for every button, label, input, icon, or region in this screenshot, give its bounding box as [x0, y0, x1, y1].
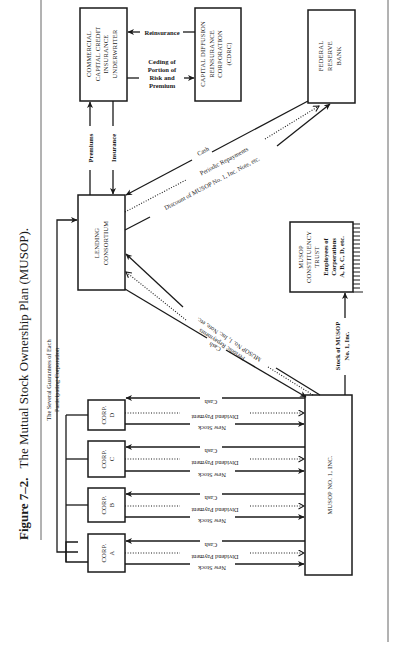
- svg-text:CONSORTIUM: CONSORTIUM: [102, 221, 109, 266]
- svg-text:Participating Corporation: Participating Corporation: [53, 347, 60, 412]
- svg-text:INSURANCE: INSURANCE: [102, 35, 109, 74]
- figure-title: The Mutual Stock Ownership Plan (MUSOP).: [16, 228, 31, 469]
- svg-text:CORP.: CORP.: [100, 543, 107, 562]
- svg-text:Dividend Payment: Dividend Payment: [191, 414, 238, 421]
- edge-stock-musop: Stock of MUSOP No. 1, Inc.: [334, 293, 350, 395]
- svg-text:CAPITAL CREDIT: CAPITAL CREDIT: [94, 27, 101, 82]
- svg-text:Corporations: Corporations: [330, 238, 337, 276]
- edge-fed-repayments: Periodic Repayments: [125, 106, 319, 212]
- svg-text:CAPITAL DIFFUSION: CAPITAL DIFFUSION: [199, 21, 206, 87]
- svg-text:Portion of: Portion of: [148, 66, 177, 73]
- edge-reinsurance: Reinsurance: [128, 29, 195, 36]
- svg-text:Reinsurance: Reinsurance: [144, 29, 179, 36]
- edge-corp-b-newstock: New Stock: [125, 517, 304, 525]
- node-corp-a: CORP. A: [88, 534, 125, 572]
- svg-text:LENDING: LENDING: [93, 228, 100, 258]
- svg-text:CORPORATION: CORPORATION: [216, 30, 223, 78]
- musop-diagram: Figure 7–2.The Mutual Stock Ownership Pl…: [0, 0, 394, 668]
- node-musop-no1: MUSOP NO. 1, INC.: [305, 395, 352, 575]
- svg-text:New Stock: New Stock: [197, 565, 226, 572]
- svg-text:CORP.: CORP.: [100, 495, 107, 514]
- svg-text:MUSOP NO. 1, INC.: MUSOP NO. 1, INC.: [326, 455, 333, 514]
- svg-text:CORP.: CORP.: [100, 449, 107, 468]
- svg-text:Insurance: Insurance: [110, 134, 117, 162]
- edge-fed-discount: Discount of MUSOP No. 1, Inc. Note, etc.: [125, 104, 330, 230]
- svg-text:Dividend Payment: Dividend Payment: [191, 460, 238, 467]
- svg-text:MUSOP: MUSOP: [297, 245, 304, 269]
- edge-premiums: Premiums: [87, 102, 94, 195]
- svg-text:Cash: Cash: [204, 448, 217, 455]
- edge-corp-c-dividend: Dividend Payment: [125, 459, 304, 467]
- svg-text:Dividend Payment: Dividend Payment: [191, 554, 238, 561]
- svg-text:New Stock: New Stock: [197, 472, 226, 479]
- svg-text:B: B: [108, 502, 115, 507]
- svg-text:CONSTITUENCY: CONSTITUENCY: [305, 231, 312, 283]
- svg-text:The Several Guarantees of Each: The Several Guarantees of Each: [45, 339, 52, 421]
- svg-text:Cash: Cash: [196, 144, 211, 156]
- node-cdrc: CAPITAL DIFFUSION REINSURANCE CORPORATIO…: [195, 8, 241, 101]
- svg-text:CORP.: CORP.: [100, 405, 107, 424]
- svg-text:A, B, C, D, etc.: A, B, C, D, etc.: [338, 236, 345, 278]
- svg-text:Cash: Cash: [204, 495, 217, 502]
- node-corp-b: CORP. B: [88, 488, 125, 522]
- svg-text:Stock of MUSOP: Stock of MUSOP: [334, 322, 341, 370]
- svg-text:Ceding of: Ceding of: [148, 58, 176, 65]
- svg-text:BANK: BANK: [335, 46, 342, 65]
- svg-text:FEDERAL: FEDERAL: [317, 41, 324, 72]
- svg-text:New Stock: New Stock: [197, 425, 226, 432]
- svg-text:COMMERCIAL: COMMERCIAL: [85, 31, 92, 77]
- edge-corp-c-newstock: New Stock: [125, 471, 304, 479]
- edge-corp-c-cash: Cash: [126, 447, 305, 455]
- svg-text:UNDERWRITER: UNDERWRITER: [111, 29, 118, 79]
- node-constituency-trust: MUSOP CONSTITUENCY TRUST Employees of Co…: [290, 222, 363, 292]
- edge-corp-b-dividend: Dividend Payment: [125, 506, 304, 514]
- edge-corp-a-newstock: New Stock: [125, 564, 304, 572]
- svg-text:D: D: [108, 412, 115, 417]
- figure-caption: Figure 7–2.The Mutual Stock Ownership Pl…: [16, 228, 31, 540]
- node-corp-d: CORP. D: [88, 400, 125, 430]
- node-federal-reserve: FEDERAL RESERVE BANK: [308, 10, 355, 103]
- trust-hatch: [353, 224, 363, 292]
- svg-text:Premium: Premium: [149, 82, 176, 89]
- svg-text:TRUST: TRUST: [313, 246, 320, 268]
- edge-corp-a-dividend: Dividend Payment: [125, 553, 304, 561]
- figure-label: Figure 7–2.: [16, 477, 31, 540]
- svg-text:No. 1, Inc.: No. 1, Inc.: [343, 331, 350, 360]
- svg-text:A: A: [108, 550, 115, 555]
- edge-corp-d-cash: Cash: [126, 398, 305, 406]
- edge-corp-a-cash: Cash: [126, 541, 305, 549]
- svg-text:Risk and: Risk and: [149, 74, 174, 81]
- edge-corp-b-cash: Cash: [126, 494, 305, 502]
- node-underwriter: COMMERCIAL CAPITAL CREDIT INSURANCE UNDE…: [80, 8, 127, 101]
- svg-text:Cash: Cash: [204, 542, 217, 549]
- svg-text:C: C: [108, 457, 115, 462]
- svg-text:(CDRC): (CDRC): [225, 42, 233, 65]
- svg-text:RESERVE: RESERVE: [326, 41, 333, 71]
- node-corp-c: CORP. C: [88, 441, 125, 477]
- node-lending-consortium: LENDING CONSORTIUM: [78, 195, 125, 290]
- svg-text:Premiums: Premiums: [87, 133, 94, 162]
- svg-text:New Stock: New Stock: [197, 518, 226, 525]
- svg-text:Cash: Cash: [204, 399, 217, 406]
- edge-insurance: Insurance: [110, 101, 117, 194]
- edge-corp-d-dividend: Dividend Payment: [125, 413, 304, 421]
- svg-text:Dividend Payment: Dividend Payment: [191, 507, 238, 514]
- svg-text:MUSOP No. 1, Inc. Note, etc.: MUSOP No. 1, Inc. Note, etc.: [195, 316, 263, 363]
- svg-text:REINSURANCE: REINSURANCE: [208, 30, 215, 78]
- svg-text:Figure 7–2.The Mutual Stock Ow: Figure 7–2.The Mutual Stock Ownership Pl…: [16, 228, 31, 540]
- svg-text:Employees of: Employees of: [322, 237, 329, 275]
- edge-ceding: Ceding of Portion of Risk and Premium: [127, 58, 194, 89]
- edge-corp-d-newstock: New Stock: [125, 424, 304, 432]
